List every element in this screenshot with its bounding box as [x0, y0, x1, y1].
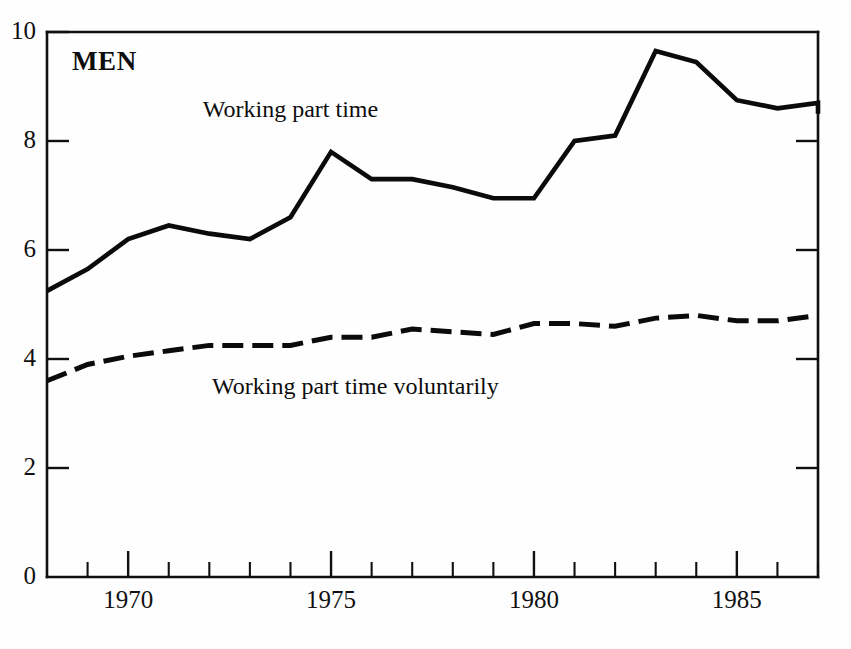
x-tick-label-1975: 1975 [306, 586, 356, 613]
x-tick-label-1985: 1985 [712, 586, 762, 613]
line-chart: 0246810 1970197519801985 MEN Working par… [0, 0, 851, 649]
chart-figure: the lower paragraph shows of part-time w… [0, 0, 851, 649]
y-tick-label-2: 2 [24, 453, 37, 480]
x-tick-label-1980: 1980 [509, 586, 559, 613]
y-tick-label-10: 10 [11, 17, 36, 44]
y-tick-label-4: 4 [24, 344, 37, 371]
y-tick-label-6: 6 [24, 235, 37, 262]
x-tick-label-1970: 1970 [103, 586, 153, 613]
series-label-working-part-time-voluntarily: Working part time voluntarily [212, 373, 499, 399]
page-title: MEN [72, 46, 137, 76]
y-tick-label-8: 8 [24, 126, 37, 153]
y-tick-label-0: 0 [24, 562, 37, 589]
series-label-working-part-time: Working part time [203, 96, 378, 122]
